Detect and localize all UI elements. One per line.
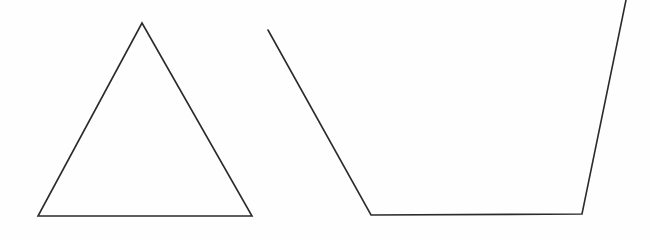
canvas-background	[0, 0, 650, 241]
figure-svg	[0, 0, 650, 241]
drawing-canvas	[0, 0, 650, 241]
